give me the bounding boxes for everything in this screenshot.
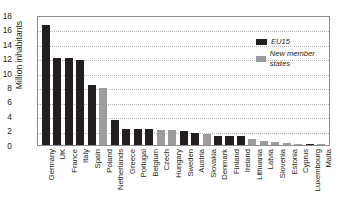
x-label-slot: Cyprus: [293, 147, 305, 216]
x-label-slot: Luxembourg: [305, 147, 317, 216]
x-label-slot: Ireland: [236, 147, 248, 216]
x-label-slot: Slovakia: [201, 147, 213, 216]
legend-swatch-icon: [256, 56, 266, 62]
bar-slot: [155, 17, 166, 145]
bar[interactable]: [237, 136, 245, 145]
bar-slot: [212, 17, 223, 145]
bar[interactable]: [271, 142, 279, 145]
y-axis-title: Million inhabitants: [14, 0, 24, 120]
bar[interactable]: [317, 144, 325, 145]
bar-slot: [189, 17, 200, 145]
bar[interactable]: [168, 130, 176, 145]
bar-slot: [86, 17, 97, 145]
bar[interactable]: [157, 130, 165, 145]
bar[interactable]: [180, 131, 188, 145]
bar[interactable]: [53, 58, 61, 145]
bar-chart: Million inhabitants 024681012141618 EU15…: [0, 0, 345, 216]
y-axis-tick-label: 0: [0, 142, 12, 150]
bar[interactable]: [248, 139, 256, 146]
bar[interactable]: [122, 129, 130, 145]
y-axis-tick-label: 18: [0, 12, 12, 20]
x-label-slot: Belgium: [143, 147, 155, 216]
x-label-slot: Estonia: [282, 147, 294, 216]
y-axis-tick-label: 8: [0, 84, 12, 92]
bar[interactable]: [65, 58, 73, 145]
bar[interactable]: [99, 88, 107, 145]
x-label-slot: Portugal: [132, 147, 144, 216]
bar[interactable]: [214, 136, 222, 145]
bar[interactable]: [88, 85, 96, 145]
x-label-slot: Czech: [155, 147, 167, 216]
y-axis-tick-label: 12: [0, 55, 12, 63]
bar-slot: [74, 17, 85, 145]
x-label-slot: Slovenia: [270, 147, 282, 216]
bar-slot: [224, 17, 235, 145]
x-label-slot: Lithuania: [247, 147, 259, 216]
bar[interactable]: [42, 25, 50, 145]
x-label-slot: Greece: [120, 147, 132, 216]
legend-label: EU15: [271, 37, 290, 47]
x-axis-tick-labels: GermanyUKFranceItalySpainPolandNetherlan…: [37, 147, 330, 216]
bar-slot: [63, 17, 74, 145]
bar-slot: [201, 17, 212, 145]
x-label-slot: Italy: [74, 147, 86, 216]
x-label-slot: Netherlands: [108, 147, 120, 216]
bar[interactable]: [306, 144, 314, 145]
y-axis-tick-label: 4: [0, 113, 12, 121]
bar[interactable]: [134, 129, 142, 145]
bar[interactable]: [260, 141, 268, 145]
bar-slot: [132, 17, 143, 145]
bar-slot: [166, 17, 177, 145]
x-label-slot: Poland: [97, 147, 109, 216]
bar[interactable]: [203, 134, 211, 145]
bar-slot: [97, 17, 108, 145]
chart-legend: EU15New member states: [256, 37, 329, 71]
x-label-slot: Finland: [224, 147, 236, 216]
x-label-slot: Austria: [189, 147, 201, 216]
x-label-slot: Latvia: [259, 147, 271, 216]
legend-swatch-icon: [256, 39, 267, 45]
legend-item[interactable]: New member states: [256, 49, 329, 69]
x-axis-tick-label: Malta: [325, 149, 333, 168]
x-label-slot: Denmark: [212, 147, 224, 216]
bar-slot: [143, 17, 154, 145]
x-label-slot: Germany: [39, 147, 51, 216]
x-label-slot: Malta: [317, 147, 329, 216]
y-axis-tick-label: 10: [0, 70, 12, 78]
bar[interactable]: [111, 120, 119, 145]
bar[interactable]: [283, 143, 291, 145]
x-label-slot: Sweden: [178, 147, 190, 216]
y-axis-tick-label: 2: [0, 127, 12, 135]
bar-slot: [178, 17, 189, 145]
bar-slot: [109, 17, 120, 145]
x-label-slot: France: [62, 147, 74, 216]
legend-label: New member states: [270, 49, 329, 69]
y-axis-tick-label: 16: [0, 26, 12, 34]
bar-slot: [120, 17, 131, 145]
plot-area: EU15New member states: [37, 16, 330, 146]
legend-item[interactable]: EU15: [256, 37, 329, 47]
x-label-slot: Spain: [85, 147, 97, 216]
x-label-slot: Hungary: [166, 147, 178, 216]
bar[interactable]: [225, 136, 233, 145]
bar[interactable]: [145, 129, 153, 145]
y-axis-tick-label: 14: [0, 41, 12, 49]
y-axis-tick-label: 6: [0, 98, 12, 106]
bar[interactable]: [294, 144, 302, 145]
bar-slot: [51, 17, 62, 145]
bar[interactable]: [76, 60, 84, 145]
bar-slot: [235, 17, 246, 145]
bar[interactable]: [191, 133, 199, 145]
x-label-slot: UK: [51, 147, 63, 216]
bar-slot: [40, 17, 51, 145]
